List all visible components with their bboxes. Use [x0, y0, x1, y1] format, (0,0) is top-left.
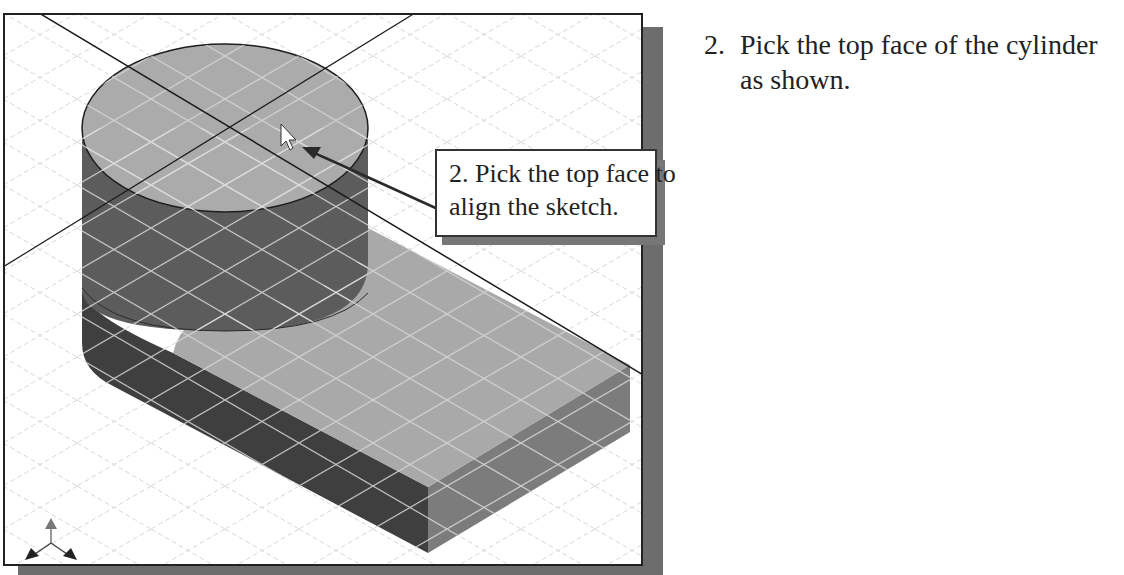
callout-box: 2. Pick the top face to align the sketch…	[435, 149, 657, 237]
step-text: Pick the top face of the cylinder as sho…	[740, 27, 1124, 97]
grid-overlay	[82, 44, 368, 212]
step-text-line-2: as shown.	[740, 62, 1124, 97]
callout-line-2: align the sketch.	[449, 190, 655, 223]
model-canvas[interactable]	[3, 13, 643, 566]
step-text-line-1: Pick the top face of the cylinder	[740, 27, 1124, 62]
graphics-viewport[interactable]	[3, 13, 643, 566]
step-number: 2.	[704, 27, 725, 62]
callout-line-1: 2. Pick the top face to	[449, 157, 655, 190]
